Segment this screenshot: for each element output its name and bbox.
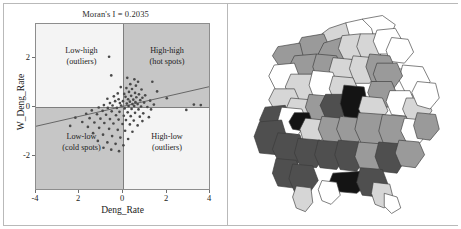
scatter-point — [134, 92, 137, 95]
scatter-point — [123, 107, 126, 110]
scatter-point — [143, 101, 146, 104]
scatter-point — [137, 108, 140, 111]
scatter-point — [130, 108, 133, 111]
scatter-point — [126, 111, 129, 114]
scatter-point — [115, 114, 118, 117]
scatter-point — [122, 114, 125, 117]
scatter-point — [185, 109, 188, 112]
scatter-point — [199, 104, 202, 107]
scatter-point — [140, 88, 143, 91]
scatter-point — [109, 102, 112, 105]
scatter-point — [128, 91, 131, 94]
scatter-point — [97, 106, 100, 109]
scatter-point — [129, 115, 132, 118]
scatter-point — [165, 97, 168, 100]
figure-container: Moran's I = 0.2035 Low-high (outliers) H… — [0, 0, 461, 229]
scatter-point — [98, 127, 101, 130]
scatter-point — [153, 103, 156, 106]
scatter-point — [99, 117, 102, 120]
scatter-point — [110, 110, 113, 113]
scatter-point — [137, 80, 140, 83]
map-region — [395, 140, 424, 168]
scatter-point — [121, 123, 124, 126]
ytickmark-2 — [32, 155, 35, 156]
y-axis-label: W_Deng_Rate — [16, 47, 26, 157]
map-region — [318, 181, 340, 205]
scatter-point — [146, 106, 149, 109]
scatter-point — [122, 100, 125, 103]
scatter-point — [118, 111, 121, 114]
scatter-point — [120, 104, 123, 107]
scatter-point — [101, 110, 104, 113]
scatter-point — [105, 113, 108, 116]
scatter-point — [136, 124, 139, 127]
scatter-point — [122, 144, 125, 147]
quadrant-label-low-low-line1: Low-low — [66, 132, 96, 141]
scatter-point — [131, 88, 134, 91]
ytickmark-0 — [32, 57, 35, 58]
scatter-point — [142, 112, 145, 115]
map-region — [414, 113, 440, 141]
scatter-point — [112, 122, 115, 125]
scatter-point — [93, 121, 96, 124]
scatter-point — [111, 104, 114, 107]
scatter-point — [130, 94, 133, 97]
scatter-point — [129, 100, 132, 103]
scatter-point — [133, 78, 136, 81]
scatter-point — [117, 98, 120, 101]
scatter-point — [90, 109, 93, 112]
scatter-point — [69, 125, 72, 128]
scatter-point — [141, 120, 144, 123]
scatter-point — [96, 113, 99, 116]
scatter-point — [132, 119, 135, 122]
scatter-point — [139, 99, 142, 102]
quadrant-label-low-high: Low-high (outliers) — [44, 46, 119, 67]
x-axis-label: Deng_Rate — [35, 205, 210, 215]
scatter-point — [126, 77, 129, 80]
quadrant-label-low-high-line2: (outliers) — [66, 57, 96, 66]
quadrant-label-high-high-line1: High-high — [150, 46, 184, 55]
scatter-point — [119, 86, 122, 89]
scatter-point — [133, 105, 136, 108]
scatter-point — [141, 96, 144, 99]
quadrant-label-low-high-line1: Low-high — [65, 46, 97, 55]
quadrant-label-high-high: High-high (hot spots) — [128, 46, 206, 67]
quadrant-label-high-low-line2: (outliers) — [152, 143, 182, 152]
scatter-point — [138, 93, 141, 96]
ytickmark-1 — [32, 106, 35, 107]
scatter-point — [117, 118, 120, 121]
scatter-point — [116, 107, 119, 110]
thailand-province-map — [234, 10, 452, 219]
scatter-point — [119, 102, 122, 105]
scatter-point — [138, 115, 141, 118]
map-region — [384, 193, 401, 213]
scatter-point — [135, 84, 138, 87]
scatter-point — [148, 116, 151, 119]
scatter-point — [151, 80, 154, 83]
scatter-point — [116, 92, 119, 95]
scatter-point — [113, 95, 116, 98]
scatter-point — [125, 102, 128, 105]
scatter-point — [109, 118, 112, 121]
quadrant-label-low-low-line2: (cold spots) — [62, 143, 100, 152]
xtick-label-3: 2 — [156, 193, 176, 203]
scatter-point — [193, 103, 196, 106]
scatter-point — [150, 108, 153, 111]
scatter-point — [103, 104, 106, 107]
scatter-point — [125, 87, 128, 90]
scatter-point — [127, 98, 130, 101]
scatter-point — [103, 122, 106, 125]
scatter-point — [149, 99, 152, 102]
quadrant-label-high-low: High-low (outliers) — [128, 132, 206, 153]
scatter-point — [87, 126, 90, 129]
scatter-point — [134, 101, 137, 104]
scatter-point — [132, 98, 135, 101]
scatter-point — [110, 74, 113, 77]
scatter-point — [135, 96, 138, 99]
scatter-point — [85, 112, 88, 115]
scatter-plot-area: Low-high (outliers) High-high (hot spots… — [35, 23, 210, 190]
scatter-point — [125, 119, 128, 122]
scatter-point — [129, 123, 132, 126]
scatter-point — [156, 90, 159, 93]
scatter-point — [123, 93, 126, 96]
